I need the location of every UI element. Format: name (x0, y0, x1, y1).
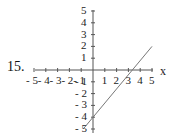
y-tick-label: 1 (81, 52, 87, 63)
x-tick-label: 2 (114, 75, 120, 86)
y-tick-label: - 5 (75, 123, 87, 134)
x-axis-label: x (160, 65, 166, 77)
x-tick-label: - 2 (61, 75, 73, 86)
x-tick-label: - 3 (50, 75, 62, 86)
y-tick-label: 4 (81, 17, 87, 28)
y-tick-label: 2 (81, 40, 87, 51)
x-tick-label: 1 (102, 75, 108, 86)
y-tick-label: - 1 (75, 76, 87, 87)
x-tick-label: - 4 (38, 75, 50, 86)
y-tick-label: - 2 (75, 88, 87, 99)
y-tick-label: - 4 (75, 111, 87, 122)
x-tick-label: 5 (149, 75, 155, 86)
x-tick-label: 3 (125, 75, 131, 86)
function-line (83, 46, 152, 129)
y-tick-label: - 3 (75, 99, 87, 110)
x-tick-label: 4 (137, 75, 143, 86)
y-tick-label: 3 (81, 29, 87, 40)
y-tick-label: 5 (81, 5, 87, 16)
x-tick-label: - 5 (26, 75, 38, 86)
